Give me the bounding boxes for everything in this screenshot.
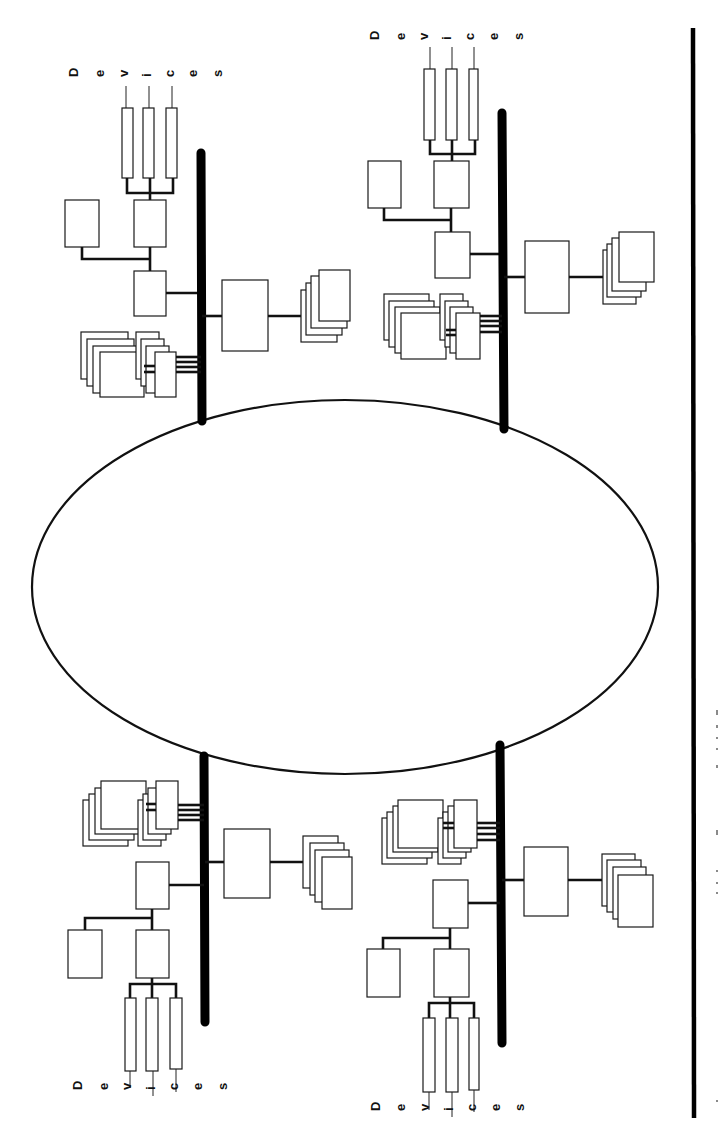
lan-segment-bottom-right: D e v i c e s: [367, 745, 653, 1117]
svg-text:c: c: [464, 1104, 479, 1111]
svg-text:v: v: [116, 69, 131, 77]
device-2: [446, 69, 457, 140]
peripheral-stack: [301, 270, 350, 342]
server-box: [524, 847, 568, 916]
lan-bus: [500, 745, 502, 1043]
network-node-box: [433, 880, 468, 928]
device-group: [423, 997, 479, 1117]
server-box: [222, 280, 268, 351]
svg-text:e: e: [96, 1083, 111, 1090]
svg-text:D: D: [70, 1081, 85, 1090]
network-node-box: [435, 232, 470, 278]
auxiliary-box: [65, 200, 99, 247]
device-3: [166, 108, 177, 178]
svg-text:s: s: [512, 1104, 527, 1111]
device-group: [424, 47, 478, 161]
svg-text:e: e: [393, 33, 408, 40]
controller-box: [136, 930, 169, 978]
network-node-box: [134, 271, 166, 316]
device-1: [423, 1018, 435, 1092]
device-3: [469, 69, 478, 140]
workstation-cluster: [384, 294, 502, 359]
auxiliary-box: [368, 161, 401, 208]
svg-text:s: s: [511, 33, 526, 40]
workstation-cluster: [83, 781, 204, 846]
device-1: [125, 998, 136, 1071]
page-border-line: [693, 28, 694, 1118]
server-box: [525, 241, 569, 313]
svg-text:c: c: [162, 70, 177, 77]
peripheral-stack: [303, 836, 352, 909]
device-2: [143, 108, 154, 178]
device-1: [424, 69, 435, 140]
svg-text:c: c: [166, 1083, 181, 1090]
device-2: [146, 998, 158, 1071]
svg-text:i: i: [143, 1086, 158, 1090]
svg-text:D: D: [66, 68, 81, 77]
server-box: [224, 829, 270, 898]
controller-box: [434, 949, 469, 997]
ring-network: [32, 400, 658, 774]
svg-text:e: e: [185, 70, 200, 77]
lan-bus: [201, 153, 202, 421]
svg-text:c: c: [462, 33, 477, 40]
controller-box: [134, 200, 166, 247]
device-3: [170, 998, 182, 1069]
lan-segment-bottom-left: D e v i c e s: [68, 756, 352, 1096]
svg-text:v: v: [416, 32, 431, 40]
faint-side-text: [716, 710, 718, 1102]
svg-text:s: s: [210, 70, 225, 77]
auxiliary-box: [367, 949, 400, 997]
svg-text:D: D: [367, 31, 382, 40]
workstation-cluster: [81, 332, 201, 397]
controller-box: [434, 161, 469, 208]
svg-text:e: e: [486, 33, 501, 40]
devices-label: D e v i c e s: [66, 68, 225, 77]
lan-bus: [204, 756, 205, 1022]
devices-label: D e v i c e s: [368, 1102, 527, 1111]
svg-text:D: D: [368, 1102, 383, 1111]
svg-text:v: v: [417, 1103, 432, 1111]
lan-segment-top-left: D e v i c e s: [65, 68, 350, 421]
network-diagram: D e v i c e s: [0, 0, 719, 1142]
device-3: [469, 1018, 479, 1090]
peripheral-stack: [602, 854, 653, 927]
svg-text:s: s: [215, 1083, 230, 1090]
network-node-box: [136, 862, 169, 909]
lan-segment-top-right: D e v i c e s: [367, 31, 654, 429]
svg-text:v: v: [119, 1082, 134, 1090]
workstation-cluster: [382, 800, 500, 864]
peripheral-stack: [603, 232, 654, 304]
device-1: [122, 108, 133, 178]
svg-text:i: i: [441, 1107, 456, 1111]
lan-bus: [502, 113, 504, 429]
auxiliary-box: [68, 930, 102, 978]
svg-text:e: e: [92, 70, 107, 77]
device-group: [125, 978, 182, 1096]
svg-text:e: e: [393, 1104, 408, 1111]
devices-label: D e v i c e s: [70, 1081, 230, 1090]
devices-label: D e v i c e s: [367, 31, 526, 40]
svg-text:i: i: [439, 36, 454, 40]
svg-text:e: e: [190, 1083, 205, 1090]
svg-text:i: i: [139, 73, 154, 77]
device-group: [122, 86, 177, 200]
device-2: [446, 1018, 458, 1092]
svg-text:e: e: [488, 1104, 503, 1111]
